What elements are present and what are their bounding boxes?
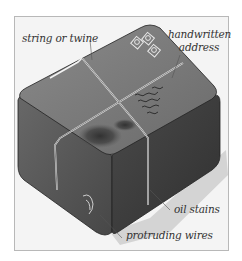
label-oil-stains: oil stains [174, 203, 220, 215]
label-string-or-twine: string or twine [22, 32, 98, 44]
label-protruding-wires: protruding wires [126, 229, 213, 241]
label-handwritten-address-line2: address [168, 41, 230, 53]
label-handwritten-address-line1: handwritten [168, 28, 230, 40]
